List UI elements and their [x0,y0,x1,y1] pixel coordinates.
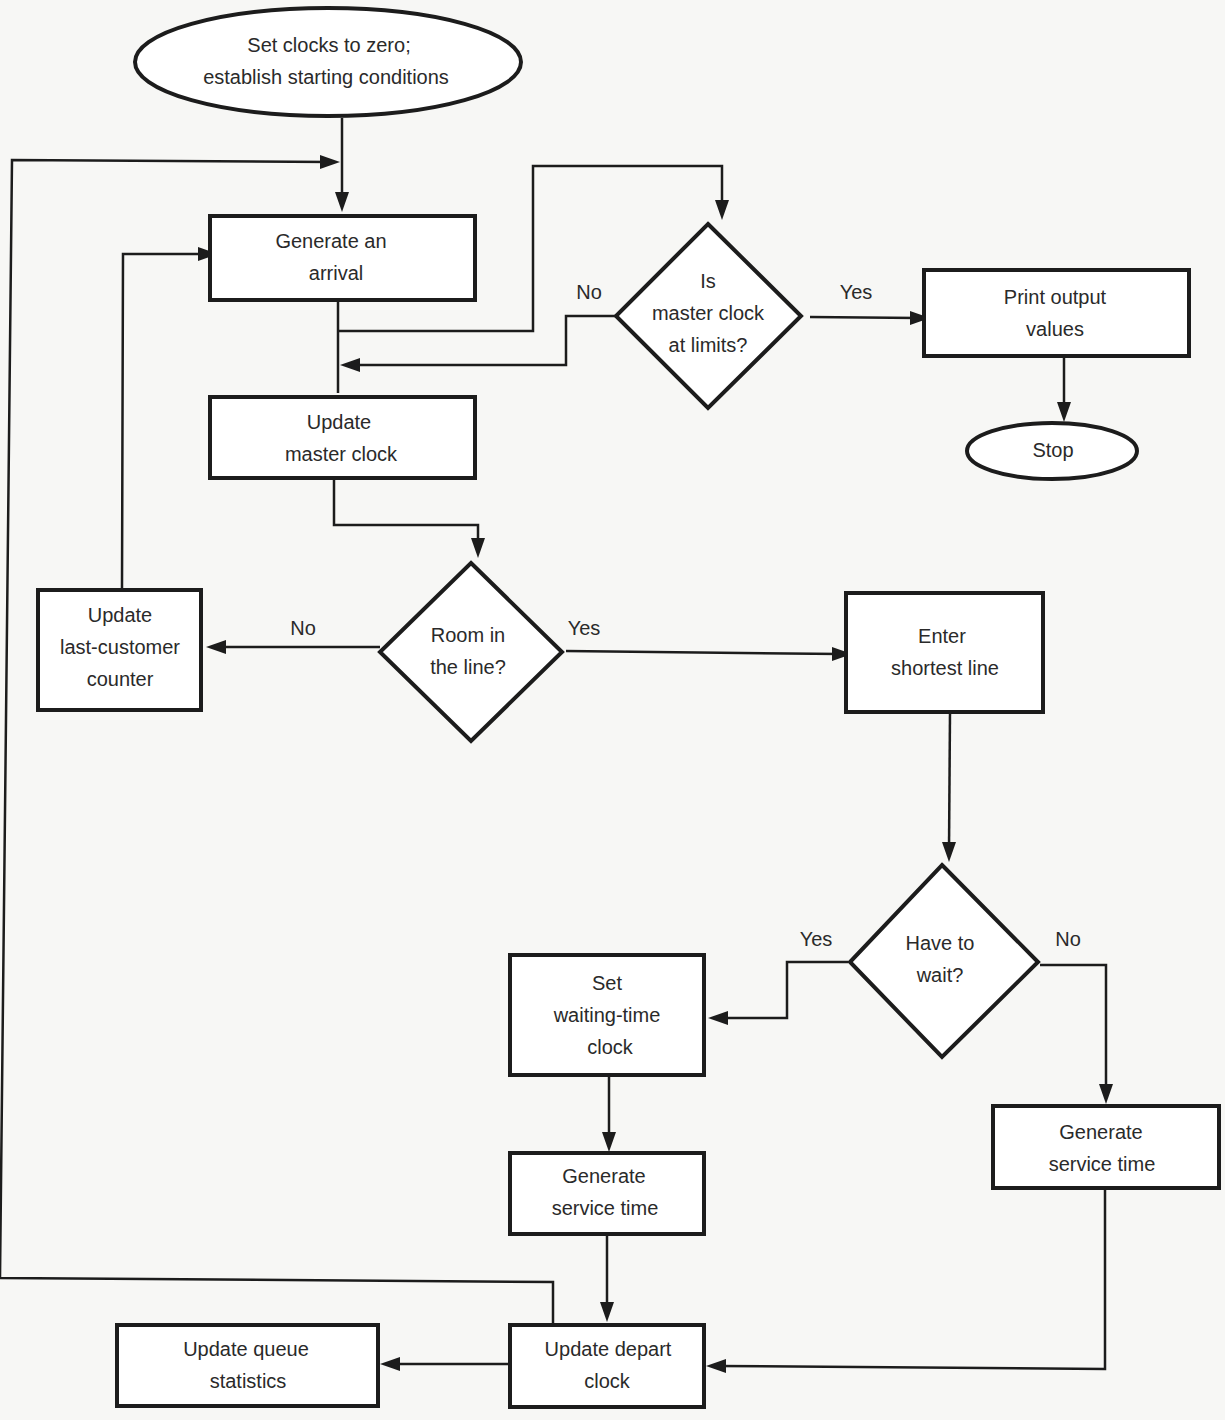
arrow-head [340,358,360,372]
service-left-line-1: Generate [562,1165,645,1187]
edge-limits-no [350,316,618,365]
limits-line-3: at limits? [669,334,748,356]
enter-line-1: Enter [918,625,966,647]
arrow-head [1057,402,1071,422]
limits-yes-label: Yes [840,281,873,303]
update-depart-clock-box: Update depart clock [510,1325,704,1407]
edge-lastcust-to-arrival [122,254,208,588]
depart-line-2: clock [584,1370,631,1392]
enter-line-2: shortest line [891,657,999,679]
edge-enter-to-wait [949,712,950,850]
stop-label: Stop [1032,439,1073,461]
generate-service-time-right-box: Generate service time [993,1106,1219,1188]
arrow-head [320,155,340,169]
room-in-line-decision: Room in the line? [380,563,562,741]
arrow-head [602,1132,616,1152]
print-output-line-2: values [1026,318,1084,340]
arrow-head [380,1357,400,1371]
arrow-head [708,1011,728,1025]
start-line-1: Set clocks to zero; [247,34,410,56]
room-yes-label: Yes [568,617,601,639]
set-waiting-clock-box: Set waiting-time clock [510,955,704,1075]
wait-yes-label: Yes [800,928,833,950]
update-master-line-2: master clock [285,443,398,465]
have-to-wait-decision: Have to wait? [850,865,1038,1057]
master-clock-limits-decision: Is master clock at limits? [616,224,801,408]
edge-room-yes [566,651,840,654]
edge-limits-yes [810,317,918,318]
arrow-head [715,200,729,220]
last-customer-line-3: counter [87,668,154,690]
stop-terminal: Stop [967,423,1137,479]
edge-wait-no [1040,965,1106,1092]
depart-line-1: Update depart [545,1338,672,1360]
wait-no-label: No [1055,928,1081,950]
last-customer-line-2: last-customer [60,636,180,658]
room-line-2: the line? [430,656,506,678]
generate-arrival-line-2: arrival [309,262,363,284]
arrow-head [1099,1084,1113,1104]
update-last-customer-box: Update last-customer counter [38,590,201,710]
queue-stats-line-2: statistics [210,1370,287,1392]
limits-line-1: Is [700,270,716,292]
room-line-1: Room in [431,624,505,646]
arrow-head [942,842,956,862]
room-no-label: No [290,617,316,639]
arrow-head [206,640,226,654]
start-line-2: establish starting conditions [203,66,449,88]
generate-arrival-box: Generate an arrival [210,216,475,300]
update-master-clock-box: Update master clock [210,397,475,478]
update-master-line-1: Update [307,411,372,433]
generate-service-time-left-box: Generate service time [510,1153,704,1234]
wait-line-2: wait? [916,964,964,986]
queue-stats-line-1: Update queue [183,1338,309,1360]
limits-line-2: master clock [652,302,765,324]
waiting-line-3: clock [587,1036,634,1058]
edge-service-right-to-depart [718,1189,1105,1369]
service-left-line-2: service time [552,1197,659,1219]
arrow-head [471,538,485,558]
wait-line-1: Have to [906,932,975,954]
limits-no-label: No [576,281,602,303]
arrow-head [706,1359,726,1373]
edge-wait-yes [720,962,848,1018]
waiting-line-1: Set [592,972,622,994]
generate-arrival-line-1: Generate an [275,230,386,252]
last-customer-line-1: Update [88,604,153,626]
flowchart-canvas: Set clocks to zero; establish starting c… [0,0,1225,1420]
edge-master-to-room [334,478,478,548]
arrow-head [335,192,349,212]
service-right-line-2: service time [1049,1153,1156,1175]
service-right-line-1: Generate [1059,1121,1142,1143]
start-terminal: Set clocks to zero; establish starting c… [135,8,521,116]
enter-shortest-line-box: Enter shortest line [846,593,1043,712]
update-queue-statistics-box: Update queue statistics [117,1325,378,1406]
arrow-head [600,1302,614,1322]
waiting-line-2: waiting-time [553,1004,661,1026]
print-output-box: Print output values [924,270,1189,356]
print-output-line-1: Print output [1004,286,1107,308]
